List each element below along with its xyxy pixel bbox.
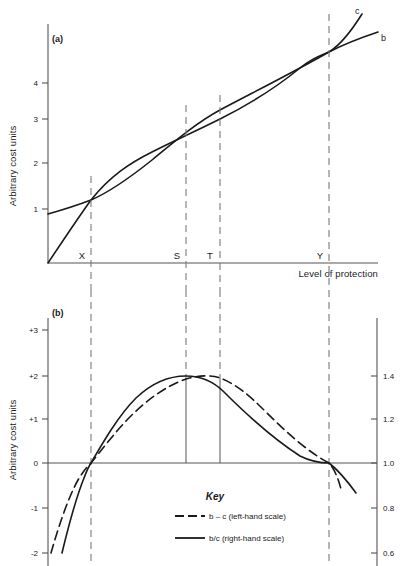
panel-b-rtick-14: 1.4 <box>383 372 395 381</box>
panel-b: +3 +2 +1 0 -1 -2 1.4 1.2 1.0 0.8 0.6 Arb… <box>7 308 395 566</box>
figure-container: 1 2 3 4 Arbitrary cost units (a) Level o… <box>0 0 404 566</box>
panel-a-ytick-1: 1 <box>34 205 39 214</box>
panel-a-y-axis-title: Arbitrary cost units <box>7 126 18 207</box>
legend-title: Key <box>206 491 225 502</box>
panel-b-ytick-plus3: +3 <box>29 326 39 335</box>
marker-label-s: S <box>174 250 180 261</box>
panel-b-tag: (b) <box>52 308 64 318</box>
curve-label-c: c <box>355 6 360 16</box>
panel-a-x-axis-title: Level of protection <box>298 268 378 279</box>
curve-label-b: b <box>381 33 386 43</box>
marker-label-y: Y <box>317 250 324 261</box>
curve-b-minus-c <box>51 376 341 553</box>
panel-b-rtick-10: 1.0 <box>383 459 395 468</box>
panel-b-ytick-minus2: -2 <box>31 549 39 558</box>
curve-b-over-c <box>62 376 356 553</box>
guide-line-solid-segments <box>186 378 220 463</box>
panel-a-ytick-3: 3 <box>34 115 39 124</box>
panel-b-ytick-plus1: +1 <box>29 415 39 424</box>
marker-label-x: X <box>79 250 86 261</box>
panel-b-y-axis-title: Arbitrary cost units <box>7 400 18 481</box>
panel-b-rtick-12: 1.2 <box>383 415 395 424</box>
legend-item-b-over-c: b/c (right-hand scale) <box>175 534 284 543</box>
panel-b-rtick-06: 0.6 <box>383 549 395 558</box>
panel-a: 1 2 3 4 Arbitrary cost units (a) Level o… <box>7 6 386 279</box>
legend-label-b-over-c: b/c (right-hand scale) <box>209 534 284 543</box>
panel-a-tag: (a) <box>52 34 63 44</box>
panel-b-right-ticks <box>371 376 377 553</box>
panel-b-ytick-plus2: +2 <box>29 372 39 381</box>
panel-b-left-ticks <box>42 330 48 553</box>
panel-b-ytick-zero: 0 <box>34 459 39 468</box>
legend: Key b – c (left-hand scale) b/c (right-h… <box>175 491 286 543</box>
legend-item-b-minus-c: b – c (left-hand scale) <box>175 512 286 521</box>
panel-b-ytick-minus1: -1 <box>31 504 39 513</box>
panel-a-ytick-4: 4 <box>34 79 39 88</box>
panel-b-rtick-08: 0.8 <box>383 504 395 513</box>
panel-a-ytick-2: 2 <box>34 159 39 168</box>
panel-a-y-ticks <box>42 83 48 209</box>
legend-label-b-minus-c: b – c (left-hand scale) <box>209 512 286 521</box>
vertical-guide-lines <box>91 14 329 566</box>
marker-label-t: T <box>207 250 213 261</box>
two-panel-line-chart: 1 2 3 4 Arbitrary cost units (a) Level o… <box>0 0 404 566</box>
curve-c <box>48 14 362 263</box>
